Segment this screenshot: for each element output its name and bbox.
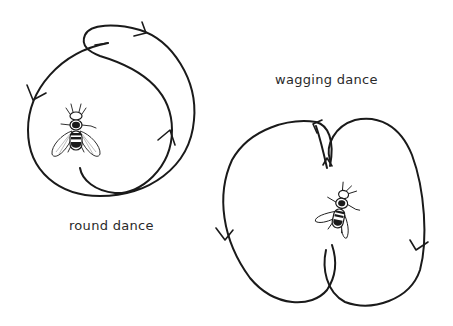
- wagging-dance-label: wagging dance: [275, 72, 378, 87]
- bee-dance-diagram: round dance wagging dance: [0, 0, 453, 326]
- round-dance-figure: [27, 22, 194, 196]
- bee-icon: [313, 178, 365, 240]
- wag-arrow-left: [216, 228, 233, 240]
- wagging-dance-figure: [216, 119, 428, 306]
- wagging-left-loop: [223, 121, 335, 302]
- wag-arrow-right: [410, 240, 428, 250]
- round-dance-label: round dance: [69, 218, 154, 233]
- round-arrow-loop-tip: [95, 43, 108, 45]
- round-dance-outer-trail: [28, 26, 194, 196]
- bee-icon: [52, 104, 100, 156]
